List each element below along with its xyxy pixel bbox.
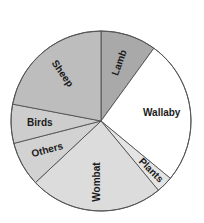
pie-label-wombat: Wombat: [91, 162, 102, 202]
pie-label-wallaby: Wallaby: [143, 107, 181, 118]
pie-chart: LambWallabyPlantsWombatOthersBirdsSheep: [0, 0, 204, 223]
pie-label-birds: Birds: [27, 117, 53, 128]
